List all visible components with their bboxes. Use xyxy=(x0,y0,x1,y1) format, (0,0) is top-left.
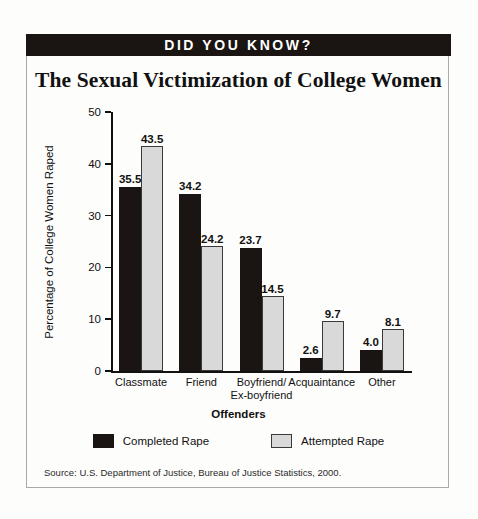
x-axis-category-label: Other xyxy=(368,376,396,389)
bar-completed: 4.0 xyxy=(360,350,382,371)
bar-completed: 35.5 xyxy=(119,187,141,371)
bar-value-label: 4.0 xyxy=(363,336,379,348)
bar-value-label: 9.7 xyxy=(325,308,341,320)
bar-completed: 34.2 xyxy=(179,194,201,371)
y-axis-title: Percentage of College Women Raped xyxy=(43,145,55,339)
bar-attempted: 9.7 xyxy=(322,321,344,371)
y-axis-tick-label: 0 xyxy=(95,365,101,377)
x-axis-line xyxy=(111,371,412,373)
y-axis-tick xyxy=(105,215,111,217)
y-axis-line xyxy=(111,112,113,371)
bar-attempted: 24.2 xyxy=(201,246,223,371)
legend-swatch xyxy=(93,434,114,448)
x-axis-category-label: Boyfriend/ Ex-boyfriend xyxy=(231,376,293,402)
did-you-know-infographic: DID YOU KNOW? The Sexual Victimization o… xyxy=(0,0,478,519)
bar-completed: 2.6 xyxy=(300,358,322,371)
legend-label: Completed Rape xyxy=(123,435,209,447)
bar-value-label: 34.2 xyxy=(179,180,201,192)
bar-chart-plot-area: 0102030405035.543.5Classmate34.224.2Frie… xyxy=(111,112,412,371)
y-axis-tick xyxy=(105,163,111,165)
x-axis-category-label: Friend xyxy=(186,376,217,389)
legend-swatch xyxy=(271,434,292,448)
banner-title: DID YOU KNOW? xyxy=(164,37,313,53)
y-axis-tick xyxy=(105,370,111,372)
did-you-know-banner: DID YOU KNOW? xyxy=(26,34,451,56)
x-axis-category-label: Classmate xyxy=(115,376,167,389)
bar-attempted: 14.5 xyxy=(262,296,284,371)
y-axis-tick-label: 30 xyxy=(88,210,101,222)
y-axis-tick-label: 20 xyxy=(88,261,101,273)
page-title: The Sexual Victimization of College Wome… xyxy=(27,68,450,93)
bar-value-label: 43.5 xyxy=(141,133,163,145)
chart-card: The Sexual Victimization of College Wome… xyxy=(26,56,449,488)
bar-value-label: 35.5 xyxy=(119,173,141,185)
bar-value-label: 24.2 xyxy=(201,233,223,245)
y-axis-tick-label: 50 xyxy=(88,106,101,118)
y-axis-tick xyxy=(105,111,111,113)
y-axis-tick xyxy=(105,267,111,269)
bar-attempted: 8.1 xyxy=(382,329,404,371)
legend-item: Completed Rape xyxy=(93,434,209,448)
bar-completed: 23.7 xyxy=(240,248,262,371)
x-axis-category-label: Acquaintance xyxy=(288,376,355,389)
y-axis-tick-label: 40 xyxy=(88,158,101,170)
bar-value-label: 23.7 xyxy=(239,234,261,246)
bar-value-label: 2.6 xyxy=(303,344,319,356)
legend-label: Attempted Rape xyxy=(301,435,384,447)
chart-legend: Completed RapeAttempted Rape xyxy=(27,434,450,448)
source-note: Source: U.S. Department of Justice, Bure… xyxy=(44,467,341,478)
legend-item: Attempted Rape xyxy=(271,434,384,448)
bar-attempted: 43.5 xyxy=(141,146,163,371)
bar-value-label: 14.5 xyxy=(261,283,283,295)
y-axis-tick-label: 10 xyxy=(88,313,101,325)
bar-value-label: 8.1 xyxy=(385,316,401,328)
x-axis-title: Offenders xyxy=(27,408,450,420)
y-axis-tick xyxy=(105,318,111,320)
